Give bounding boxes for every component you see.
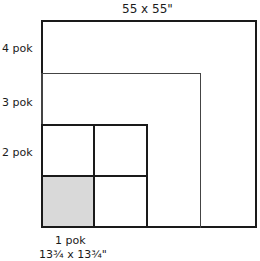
label-1-pok: 1 pok: [55, 234, 86, 247]
label-3-pok: 3 pok: [2, 96, 33, 109]
divider-horizontal: [41, 175, 148, 177]
label-1-pok-size: 13¾ x 13¾": [39, 248, 107, 261]
label-2-pok: 2 pok: [2, 146, 33, 159]
label-4-pok: 4 pok: [2, 42, 33, 55]
diagram-title: 55 x 55": [122, 2, 173, 16]
